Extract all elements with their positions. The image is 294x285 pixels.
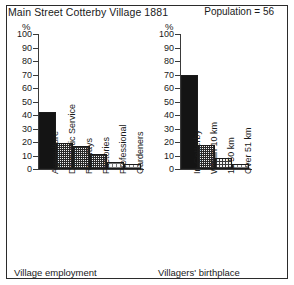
caption-villagers-birthplace: Villagers' birthplace [158, 267, 240, 278]
x-axis-category-label: In Cotterby [193, 130, 202, 174]
y-axis-tick-label: 0 [169, 165, 174, 174]
y-axis-tick-label: 50 [164, 97, 174, 106]
x-axis-category-label: Professional [119, 124, 128, 174]
y-axis-tick-label: 30 [164, 124, 174, 133]
figure-header: Main Street Cotterby Village 1881 Popula… [8, 6, 274, 20]
x-axis-category-label: Railways [85, 138, 94, 174]
figure-title: Main Street Cotterby Village 1881 [8, 6, 168, 18]
population-label: Population = 56 [204, 6, 274, 17]
x-axis-category-label: Agriculture [51, 131, 60, 174]
figure-root: Main Street Cotterby Village 1881 Popula… [0, 0, 294, 285]
y-axis-tick-label: 10 [164, 151, 174, 160]
x-axis-category-label: Within 10 km [210, 122, 219, 174]
y-axis-tick-label: 80 [164, 57, 174, 66]
y-axis-tick-label: 10 [22, 151, 32, 160]
x-axis-category-label: 11-50 km [227, 137, 236, 174]
caption-village-employment: Village employment [14, 267, 97, 278]
y-axis-tick-label: 70 [22, 70, 32, 79]
y-axis-tick-label: 80 [22, 57, 32, 66]
chart-village-employment: 0102030405060708090100AgricultureDomesti… [10, 34, 145, 244]
y-axis-tick-label: 20 [164, 138, 174, 147]
y-axis-tick-label: 90 [164, 43, 174, 52]
y-axis-tick-label: 100 [17, 30, 32, 39]
y-axis-tick-label: 60 [22, 84, 32, 93]
y-axis-tick-label: 50 [22, 97, 32, 106]
x-axis-category-label: Over 51 km [244, 127, 253, 174]
y-axis-tick-label: 40 [164, 111, 174, 120]
y-axis-tick-label: 0 [27, 165, 32, 174]
y-axis-tick-label: 70 [164, 70, 174, 79]
y-axis-village-employment: 0102030405060708090100 [10, 34, 32, 169]
y-axis-tick-label: 20 [22, 138, 32, 147]
chart-villagers-birthplace: 0102030405060708090100In CotterbyWithin … [152, 34, 284, 244]
y-axis-tick-label: 30 [22, 124, 32, 133]
x-axis-category-label: Gardeners [136, 131, 145, 174]
x-axis-category-label: Domestic Service [68, 104, 77, 174]
y-axis-villagers-birthplace: 0102030405060708090100 [152, 34, 174, 169]
y-axis-tick-label: 40 [22, 111, 32, 120]
y-axis-tick-label: 60 [164, 84, 174, 93]
y-axis-tick-label: 100 [159, 30, 174, 39]
y-axis-tick-label: 90 [22, 43, 32, 52]
x-axis-category-label: Factories [102, 137, 111, 174]
